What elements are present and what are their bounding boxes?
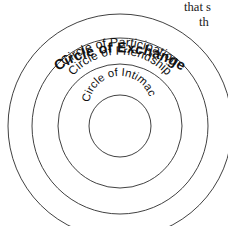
- figure-root: Circle of Exchange Circle of Participati…: [0, 0, 228, 226]
- concentric-circles-diagram: Circle of Exchange Circle of Participati…: [0, 0, 228, 226]
- body-text-fragment: that s th: [182, 0, 228, 30]
- body-text-line-1: that s: [182, 0, 228, 15]
- ring-circle-intimacy: [89, 95, 151, 157]
- ring-circle-friendship: [58, 64, 182, 188]
- body-text-line-2: th: [182, 15, 228, 30]
